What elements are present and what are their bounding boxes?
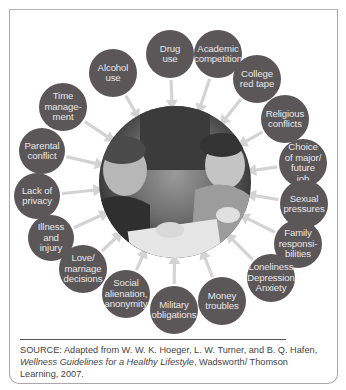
stressor-label: Religious conflicts bbox=[266, 109, 305, 130]
stressor-node-illness: Illness and injury bbox=[28, 215, 74, 261]
arrow-money bbox=[200, 249, 214, 277]
stressor-label: Drug use bbox=[160, 44, 180, 65]
source-citation: SOURCE: Adapted from W. W. K. Hoeger, L.… bbox=[20, 344, 320, 380]
arrow-family bbox=[239, 214, 275, 234]
stressor-label: Illness and injury bbox=[38, 222, 65, 254]
arrow-academic bbox=[195, 78, 211, 114]
arrow-loneliness bbox=[226, 233, 254, 261]
stressor-label: Love/ marriage decisions bbox=[63, 253, 102, 285]
source-prefix: SOURCE: Adapted from W. W. K. Hoeger, L.… bbox=[20, 345, 317, 355]
stressor-label: College red tape bbox=[240, 69, 274, 90]
source-title: Wellness Guidelines for a Healthy Lifest… bbox=[20, 357, 194, 367]
stressor-node-money: Money troubles bbox=[198, 277, 246, 325]
stressor-label: Lack of privacy bbox=[22, 186, 52, 207]
stressor-label: Alcohol use bbox=[98, 63, 129, 84]
stressor-label: Choice of major/ future job bbox=[285, 142, 321, 184]
stressor-label: Time manage- ment bbox=[44, 91, 81, 123]
arrow-choice bbox=[246, 164, 277, 176]
stressor-node-drug: Drug use bbox=[146, 30, 194, 78]
stressor-label: Military obligations bbox=[152, 300, 197, 321]
stressor-node-loneliness: Loneliness Depression Anxiety bbox=[247, 254, 295, 302]
arrow-time bbox=[84, 120, 115, 142]
stressor-node-time: Time manage- ment bbox=[39, 83, 87, 131]
stressor-label: Social alienation, anonymity bbox=[105, 278, 148, 310]
stressor-label: Loneliness Depression Anxiety bbox=[247, 262, 295, 294]
stressor-node-military: Military obligations bbox=[150, 286, 198, 334]
stressor-node-parental: Parental conflict bbox=[19, 128, 65, 174]
arrow-drug bbox=[166, 80, 178, 110]
arrow-military bbox=[168, 254, 180, 284]
stressor-node-privacy: Lack of privacy bbox=[14, 173, 60, 219]
stressor-node-social: Social alienation, anonymity bbox=[102, 270, 150, 318]
arrow-alcohol bbox=[124, 95, 139, 120]
stressor-label: Family responsi- bilities bbox=[279, 228, 318, 260]
arrow-religious bbox=[237, 131, 263, 147]
stressor-label: Academic competition bbox=[194, 44, 242, 65]
stressor-label: Sexual pressures bbox=[283, 194, 324, 215]
stressor-label: Parental conflict bbox=[25, 141, 60, 162]
arrow-love bbox=[101, 231, 123, 252]
arrow-college bbox=[220, 98, 242, 125]
stressor-label: Money troubles bbox=[205, 291, 238, 312]
stressor-node-religious: Religious conflicts bbox=[261, 95, 309, 143]
source-divider bbox=[20, 339, 286, 340]
stressor-node-alcohol: Alcohol use bbox=[89, 49, 137, 97]
stressor-node-college: College red tape bbox=[233, 55, 281, 103]
arrow-parental bbox=[66, 155, 105, 169]
center-photo bbox=[95, 100, 255, 271]
arrow-privacy bbox=[62, 184, 104, 196]
arrow-illness bbox=[73, 210, 109, 229]
arrow-sexual bbox=[246, 190, 279, 202]
